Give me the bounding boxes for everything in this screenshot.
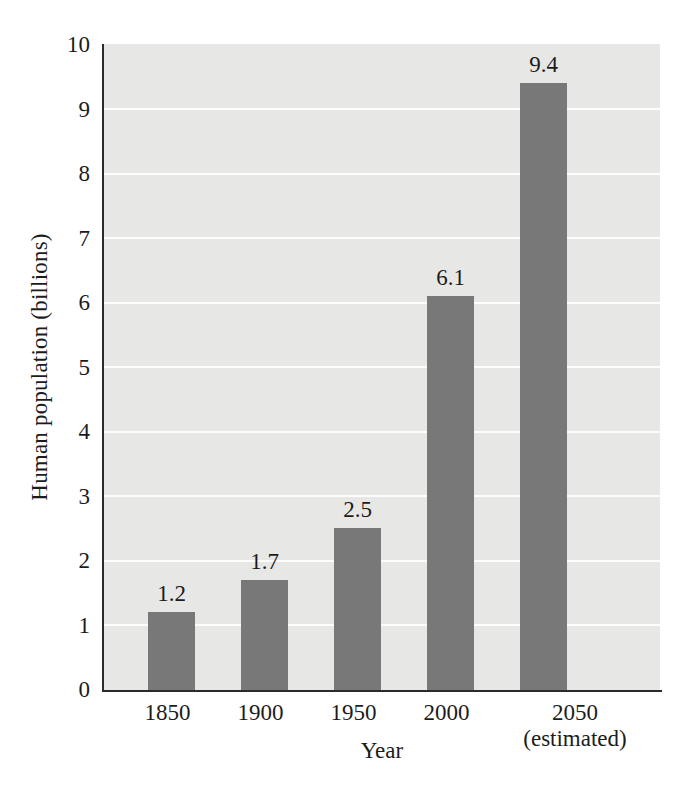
bar-value-1950: 2.5 (334, 498, 381, 521)
x-tick-label-1950: 1950 (310, 700, 397, 726)
gridline-6 (104, 302, 660, 304)
x-tick-label-1950-text: 1950 (331, 700, 377, 725)
bar-2050[interactable] (520, 83, 567, 690)
gridline-9 (104, 108, 660, 110)
x-tick-label-1900-text: 1900 (238, 700, 284, 725)
x-tick-label-2050-text: 2050 (552, 700, 598, 725)
x-axis-line (102, 690, 662, 692)
plot-area: 1.2 1.7 2.5 6.1 9.4 (104, 44, 660, 690)
gridline-3 (104, 495, 660, 497)
bar-value-2000: 6.1 (427, 266, 474, 289)
gridline-2 (104, 560, 660, 562)
gridline-4 (104, 431, 660, 433)
gridline-7 (104, 237, 660, 239)
bar-value-1900: 1.7 (241, 550, 288, 573)
bar-value-2050: 9.4 (520, 53, 567, 76)
gridline-5 (104, 366, 660, 368)
x-axis-title: Year (104, 738, 660, 764)
x-tick-label-1850: 1850 (124, 700, 211, 726)
bar-1950[interactable] (334, 528, 381, 690)
x-tick-label-1850-text: 1850 (145, 700, 191, 725)
bar-1900[interactable] (241, 580, 288, 690)
bar-value-1850: 1.2 (148, 582, 195, 605)
x-axis-title-text: Year (361, 738, 403, 763)
x-tick-label-2000: 2000 (403, 700, 490, 726)
y-axis-line (102, 44, 104, 692)
population-bar-chart-figure: Human population (billions) 10 9 8 7 6 5… (0, 0, 693, 798)
x-tick-label-2000-text: 2000 (424, 700, 470, 725)
x-tick-label-1900: 1900 (217, 700, 304, 726)
gridline-8 (104, 173, 660, 175)
bar-2000[interactable] (427, 296, 474, 690)
bar-1850[interactable] (148, 612, 195, 690)
